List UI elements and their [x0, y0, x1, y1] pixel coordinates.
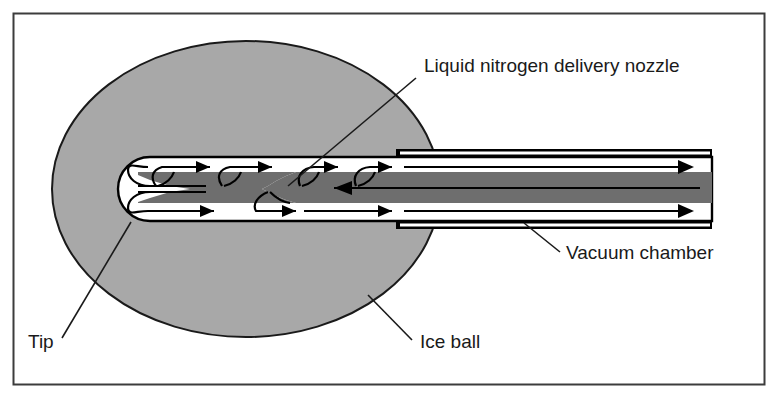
label-liquid-nitrogen-delivery-nozzle: Liquid nitrogen delivery nozzle [424, 55, 680, 76]
figure-canvas: Liquid nitrogen delivery nozzle Vacuum c… [0, 0, 782, 405]
cryoprobe-diagram: Liquid nitrogen delivery nozzle Vacuum c… [0, 0, 782, 405]
vacuum-wall-bottom-gap [400, 224, 710, 227]
vacuum-wall-top-gap [400, 152, 710, 155]
label-vacuum-chamber: Vacuum chamber [566, 242, 714, 263]
label-ice-ball: Ice ball [420, 331, 480, 352]
label-tip: Tip [28, 331, 54, 352]
